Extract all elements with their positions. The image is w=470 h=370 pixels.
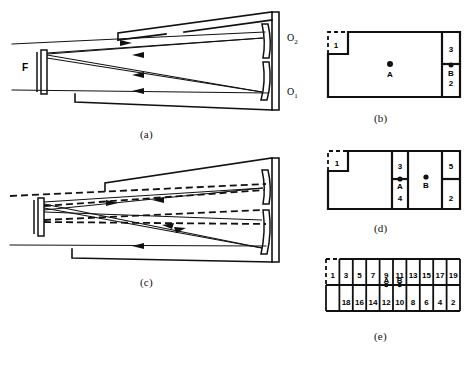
svg-text:4: 4 — [438, 298, 443, 307]
svg-text:10: 10 — [395, 298, 404, 307]
svg-text:12: 12 — [382, 298, 391, 307]
panel-c-curved-mirror-upper — [262, 170, 270, 204]
svg-text:5: 5 — [357, 271, 362, 280]
panel-d-spot-B: B — [423, 174, 429, 190]
panel-b-cell-1-label: 1 — [334, 41, 339, 50]
svg-text:13: 13 — [409, 271, 418, 280]
panel-a-rays — [47, 38, 263, 92]
panel-b-cell-3-label: 3 — [449, 45, 454, 54]
svg-text:3: 3 — [344, 271, 349, 280]
panel-d-diagram: 1 3 4 5 2 A B — [318, 143, 468, 218]
panel-d-cell-4-label: 4 — [398, 194, 403, 203]
panel-c-rays-solid — [44, 188, 263, 248]
panel-a-label-O1: O1 — [287, 86, 298, 100]
svg-text:1: 1 — [330, 271, 335, 280]
svg-text:8: 8 — [411, 298, 416, 307]
svg-text:16: 16 — [355, 298, 364, 307]
svg-text:B: B — [397, 276, 403, 285]
figure-root: F O2 O1 (a) — [0, 0, 470, 370]
panel-b-diagram: 1 3 2 A B — [318, 22, 468, 107]
svg-text:15: 15 — [422, 271, 431, 280]
panel-b-spot-B: B — [448, 63, 454, 79]
panel-b-spot-A: A — [387, 61, 393, 79]
svg-text:A: A — [397, 182, 403, 191]
panel-b-caption: (b) — [374, 112, 387, 124]
panel-d-cell-2-label: 2 — [449, 194, 454, 203]
svg-text:17: 17 — [435, 271, 444, 280]
panel-e-diagram: 13579111315171918161412108642AB — [318, 253, 468, 323]
panel-d-spot-A: A — [397, 176, 403, 191]
panel-d-cell-5-label: 5 — [449, 162, 454, 171]
svg-text:14: 14 — [368, 298, 377, 307]
panel-e-caption: (e) — [374, 330, 387, 342]
svg-text:A: A — [383, 276, 389, 285]
panel-d-caption: (d) — [374, 222, 387, 234]
panel-d-cell-1-label: 1 — [335, 159, 340, 168]
panel-d-cell-3-label: 3 — [398, 162, 403, 171]
panel-a-label-O2: O2 — [287, 32, 298, 46]
curved-mirror-O1 — [261, 62, 270, 100]
curved-mirror-O2 — [262, 24, 270, 58]
svg-text:B: B — [423, 181, 429, 190]
panel-c-curved-mirror-lower — [261, 210, 270, 254]
panel-b-cell-2-label: 2 — [449, 79, 454, 88]
flat-mirror-F — [37, 50, 47, 94]
panel-c-diagram — [0, 150, 300, 280]
svg-text:6: 6 — [424, 298, 429, 307]
panel-a-diagram — [0, 2, 300, 127]
svg-text:2: 2 — [451, 298, 456, 307]
panel-c-flat-mirror — [34, 198, 44, 236]
svg-text:7: 7 — [371, 271, 376, 280]
panel-c-caption: (c) — [140, 276, 153, 288]
svg-text:19: 19 — [449, 271, 458, 280]
panel-a-label-F: F — [22, 63, 28, 73]
svg-text:A: A — [387, 70, 393, 79]
svg-text:B: B — [448, 69, 454, 78]
panel-a-caption: (a) — [140, 128, 153, 140]
svg-text:18: 18 — [342, 298, 351, 307]
